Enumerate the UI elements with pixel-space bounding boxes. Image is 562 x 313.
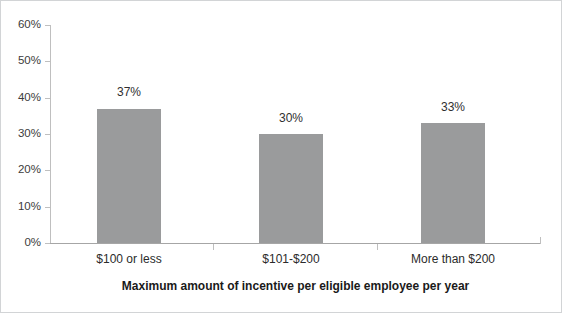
x-tick-label-2: More than $200 <box>383 253 523 265</box>
bar-value-2: 33% <box>421 101 485 113</box>
x-tick-label-0: $100 or less <box>59 253 199 265</box>
bar-0[interactable] <box>97 109 161 243</box>
x-tick-mark-2 <box>377 244 378 250</box>
bar-value-0: 37% <box>97 86 161 98</box>
bar-chart-figure: 60% 50% 40% 30% 20% 10% 0% 37% 30% 33% $… <box>0 0 562 313</box>
y-tick-label-40: 40% <box>1 92 41 104</box>
y-tick-label-50: 50% <box>1 55 41 67</box>
plot-area <box>50 25 541 243</box>
y-tick-label-60: 60% <box>1 19 41 31</box>
y-tick-label-10: 10% <box>1 201 41 213</box>
bar-1[interactable] <box>259 134 323 243</box>
x-tick-mark-1 <box>213 244 214 250</box>
y-tick-label-20: 20% <box>1 164 41 176</box>
x-tick-label-1: $101-$200 <box>221 253 361 265</box>
x-axis-title: Maximum amount of incentive per eligible… <box>50 280 541 292</box>
bars-layer <box>50 25 541 243</box>
y-tick-label-0: 0% <box>1 237 41 249</box>
bar-value-1: 30% <box>259 112 323 124</box>
bar-2[interactable] <box>421 123 485 243</box>
y-tick-label-30: 30% <box>1 128 41 140</box>
x-axis-line <box>50 243 541 244</box>
